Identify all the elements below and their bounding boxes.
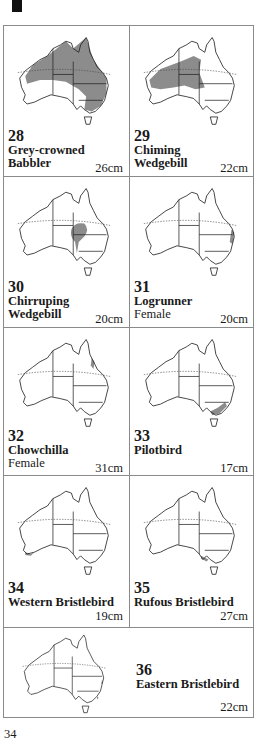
species-card-29: 29 Chiming Wedgebill 22cm bbox=[130, 26, 254, 177]
distribution-map bbox=[136, 32, 244, 128]
species-card-34: 34 Western Bristlebird 19cm bbox=[4, 476, 130, 628]
species-name-line2: Wedgebill bbox=[8, 308, 61, 321]
distribution-map bbox=[10, 334, 118, 430]
species-size: 19cm bbox=[95, 610, 123, 623]
distribution-map bbox=[10, 482, 118, 578]
species-size: 22cm bbox=[220, 701, 248, 714]
species-card-35: 35 Rufous Bristlebird 27cm bbox=[130, 476, 254, 628]
species-card-28: 28 Grey-crowned Babbler 26cm bbox=[4, 26, 130, 177]
species-name-line2: Wedgebill bbox=[134, 157, 187, 170]
species-sex: Female bbox=[134, 308, 171, 321]
distribution-map bbox=[10, 630, 118, 716]
species-number: 32 bbox=[8, 428, 24, 444]
page-tab-marker bbox=[12, 0, 22, 12]
species-sex: Female bbox=[8, 457, 45, 470]
species-name-line2: Babbler bbox=[8, 157, 51, 170]
species-number: 28 bbox=[8, 128, 24, 144]
species-number: 31 bbox=[134, 279, 150, 295]
species-number: 33 bbox=[134, 428, 150, 444]
species-name: Western Bristlebird bbox=[8, 596, 114, 609]
distribution-map bbox=[136, 334, 244, 430]
species-number: 35 bbox=[134, 580, 150, 596]
species-number: 30 bbox=[8, 279, 24, 295]
species-grid: 28 Grey-crowned Babbler 26cm 29 Chiming … bbox=[3, 25, 254, 718]
distribution-map bbox=[10, 183, 118, 279]
distribution-map bbox=[136, 183, 244, 279]
species-name: Eastern Bristlebird bbox=[136, 678, 239, 691]
distribution-map bbox=[10, 32, 118, 128]
species-card-30: 30 Chirruping Wedgebill 20cm bbox=[4, 177, 130, 328]
species-name: Pilotbird bbox=[134, 444, 182, 457]
species-size: 22cm bbox=[220, 162, 248, 175]
species-name: Rufous Bristlebird bbox=[134, 596, 234, 609]
page-number: 34 bbox=[4, 727, 17, 742]
species-size: 20cm bbox=[220, 313, 248, 326]
species-card-36: 36 Eastern Bristlebird 22cm bbox=[4, 628, 254, 718]
species-size: 20cm bbox=[95, 313, 123, 326]
species-card-33: 33 Pilotbird 17cm bbox=[130, 328, 254, 476]
species-number: 29 bbox=[134, 128, 150, 144]
species-card-31: 31 Logrunner Female 20cm bbox=[130, 177, 254, 328]
species-size: 26cm bbox=[95, 162, 123, 175]
distribution-map bbox=[136, 482, 244, 578]
species-size: 31cm bbox=[95, 462, 123, 475]
species-number: 36 bbox=[136, 662, 152, 678]
species-size: 27cm bbox=[220, 610, 248, 623]
species-card-32: 32 Chowchilla Female 31cm bbox=[4, 328, 130, 476]
species-number: 34 bbox=[8, 580, 24, 596]
species-size: 17cm bbox=[220, 462, 248, 475]
